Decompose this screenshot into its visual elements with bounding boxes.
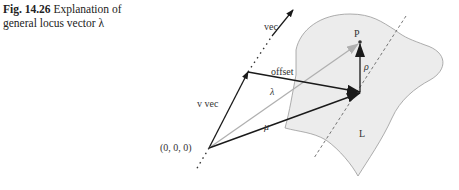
label-lambda: λ xyxy=(269,86,275,97)
label-point-p: P xyxy=(354,28,360,39)
label-surface-l: L xyxy=(359,128,365,139)
label-v-vec: v vec xyxy=(197,98,219,109)
label-mu: μ xyxy=(263,121,269,132)
surface-l xyxy=(285,14,443,176)
label-rho: ρ xyxy=(363,61,369,72)
label-origin: (0, 0, 0) xyxy=(160,142,192,154)
label-vec: vec xyxy=(264,21,278,32)
label-offset: offset xyxy=(271,66,294,77)
dotted-extension-lower xyxy=(196,148,209,170)
locus-vector-diagram: vec v vec offset λ μ ρ P (0, 0, 0) L xyxy=(0,0,459,190)
point-p-marker xyxy=(358,40,362,44)
dotted-extension-upper xyxy=(248,36,272,72)
